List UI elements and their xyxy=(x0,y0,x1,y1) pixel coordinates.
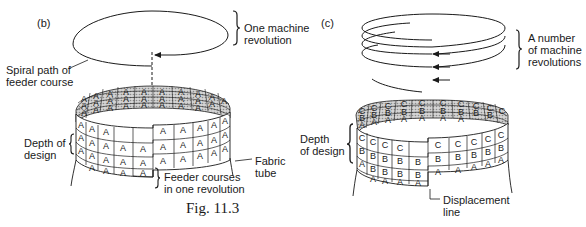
svg-text:A: A xyxy=(197,138,203,148)
svg-text:B: B xyxy=(415,157,421,167)
svg-text:A: A xyxy=(382,176,388,186)
svg-text:A: A xyxy=(211,135,217,145)
svg-text:A: A xyxy=(180,154,186,164)
svg-text:C: C xyxy=(471,137,478,147)
svg-text:A: A xyxy=(385,115,391,125)
fabric-tube-left xyxy=(71,160,76,186)
svg-text:C: C xyxy=(370,137,377,147)
svg-text:A: A xyxy=(140,168,146,178)
svg-text:A: A xyxy=(458,114,464,124)
svg-text:C: C xyxy=(499,106,506,116)
feeder-courses-label: Feeder courses in one revolution xyxy=(164,171,245,195)
svg-text:B: B xyxy=(473,108,479,118)
brace-icon xyxy=(69,134,74,154)
svg-text:B: B xyxy=(455,152,461,162)
panel-c-label: (c) xyxy=(321,17,334,29)
svg-text:A: A xyxy=(401,114,407,124)
svg-text:A: A xyxy=(197,151,203,161)
svg-text:A: A xyxy=(140,158,146,168)
svg-text:A: A xyxy=(78,120,84,130)
svg-text:B: B xyxy=(397,156,403,166)
svg-text:A: A xyxy=(178,101,184,111)
svg-text:A: A xyxy=(103,141,109,151)
svg-text:A: A xyxy=(103,155,109,165)
spiral-path-label: Spiral path of feeder course xyxy=(6,64,73,88)
displacement-line-label: Displacement line xyxy=(443,194,510,218)
svg-text:A: A xyxy=(471,162,477,172)
svg-text:A: A xyxy=(359,120,365,130)
svg-text:A: A xyxy=(195,103,201,113)
svg-text:A: A xyxy=(419,113,425,123)
svg-text:A: A xyxy=(81,108,87,118)
svg-text:A: A xyxy=(211,148,217,158)
svg-text:A: A xyxy=(107,103,113,113)
svg-text:A: A xyxy=(211,120,217,130)
svg-text:A: A xyxy=(89,151,95,161)
number-of-revolutions-label: A number of machine revolutions xyxy=(528,32,582,68)
svg-text:A: A xyxy=(141,100,147,110)
panel-b: AAAAAAAAAA AAAAAAAAA AAAAAAAA AAAAAAAA A… xyxy=(69,11,252,188)
figure-caption: Fig. 11.3 xyxy=(186,200,239,217)
svg-text:A: A xyxy=(103,127,109,137)
svg-text:B: B xyxy=(359,146,365,156)
svg-text:A: A xyxy=(160,126,166,136)
svg-text:A: A xyxy=(180,125,186,135)
svg-text:C: C xyxy=(455,139,462,149)
svg-text:B: B xyxy=(485,147,491,157)
svg-text:A: A xyxy=(78,146,84,156)
svg-text:A: A xyxy=(89,163,95,173)
svg-text:A: A xyxy=(209,99,215,109)
spiral-revolution-1 xyxy=(362,14,505,47)
svg-text:A: A xyxy=(89,124,95,134)
one-machine-revolution-label: One machine revolution xyxy=(244,22,309,46)
brace-icon xyxy=(347,124,353,163)
svg-text:A: A xyxy=(222,116,228,126)
svg-text:A: A xyxy=(78,133,84,143)
panel-c: CCCCCCCCCC BBBBBBBBB AAAAAAA CCCCCCCCC B… xyxy=(347,14,522,199)
svg-text:A: A xyxy=(397,177,403,187)
svg-text:C: C xyxy=(435,140,442,150)
svg-text:A: A xyxy=(415,178,421,188)
svg-text:B: B xyxy=(471,150,477,160)
brace-icon xyxy=(155,168,160,188)
svg-text:A: A xyxy=(498,155,504,165)
svg-text:A: A xyxy=(160,142,166,152)
feeder-spiral-path xyxy=(73,11,228,66)
svg-text:A: A xyxy=(103,166,109,176)
svg-text:A: A xyxy=(221,96,227,106)
svg-text:A: A xyxy=(159,100,165,110)
svg-text:C: C xyxy=(359,133,366,143)
brace-icon xyxy=(233,11,240,45)
spiral-revolution-3 xyxy=(362,32,432,67)
fabric-tube-left xyxy=(353,170,357,196)
depth-of-design-label-b: Depth of design xyxy=(24,137,66,161)
svg-text:A: A xyxy=(371,117,377,127)
svg-text:A: A xyxy=(89,138,95,148)
svg-text:A: A xyxy=(160,156,166,166)
leader-line xyxy=(235,159,252,161)
svg-text:A: A xyxy=(435,167,441,177)
svg-text:A: A xyxy=(123,101,129,111)
svg-text:C: C xyxy=(397,143,404,153)
svg-text:A: A xyxy=(222,130,228,140)
svg-text:B: B xyxy=(370,151,376,161)
svg-text:A: A xyxy=(120,143,126,153)
svg-text:C: C xyxy=(498,130,505,140)
svg-text:B: B xyxy=(382,154,388,164)
svg-text:C: C xyxy=(485,134,492,144)
svg-text:B: B xyxy=(435,154,441,164)
svg-text:A: A xyxy=(222,144,228,154)
svg-text:A: A xyxy=(370,174,376,184)
svg-text:A: A xyxy=(455,165,461,175)
svg-text:A: A xyxy=(120,168,126,178)
brace-icon xyxy=(516,30,522,69)
svg-text:A: A xyxy=(180,140,186,150)
depth-of-design-label-c: Depth of design xyxy=(300,133,345,157)
svg-text:A: A xyxy=(440,113,446,123)
svg-text:A: A xyxy=(120,157,126,167)
fabric-tube-label: Fabric tube xyxy=(255,155,286,179)
displacement-leader xyxy=(430,189,440,199)
svg-text:B: B xyxy=(370,164,376,174)
svg-text:B: B xyxy=(487,110,493,120)
svg-text:A: A xyxy=(359,159,365,169)
